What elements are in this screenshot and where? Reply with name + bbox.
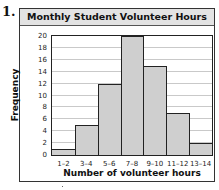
histogram-bar <box>189 143 213 156</box>
histogram-bar <box>98 84 122 156</box>
x-tick-label: 11–12 <box>166 160 189 168</box>
y-tick-label: 2 <box>27 139 47 147</box>
histogram-bar <box>121 36 145 156</box>
histogram-bar <box>166 113 190 156</box>
x-tick-label: 13–14 <box>189 160 212 168</box>
y-tick-label: 8 <box>27 103 47 111</box>
y-axis-label: Frequency <box>10 65 20 125</box>
x-tick-label: 7–8 <box>121 160 144 168</box>
stray-mark <box>62 186 63 187</box>
problem-number: 1. <box>2 4 16 19</box>
plot-area <box>51 35 213 156</box>
y-tick-label: 12 <box>27 80 47 88</box>
y-tick-label: 4 <box>27 127 47 135</box>
x-tick-label: 9–10 <box>143 160 166 168</box>
histogram-bar <box>75 125 99 156</box>
y-tick-label: 6 <box>27 115 47 123</box>
x-tick-label: 1–2 <box>52 160 75 168</box>
histogram-bar <box>51 149 76 156</box>
y-tick-label: 10 <box>27 92 47 100</box>
x-axis-label: Number of volunteer hours <box>51 168 213 178</box>
y-tick-label: 0 <box>27 151 47 159</box>
y-tick-label: 18 <box>27 44 47 52</box>
y-tick-label: 14 <box>27 68 47 76</box>
x-tick-label: 5–6 <box>98 160 121 168</box>
histogram-bar <box>143 66 167 156</box>
chart-title: Monthly Student Volunteer Hours <box>20 9 214 26</box>
y-tick-label: 16 <box>27 56 47 64</box>
x-tick-label: 3–4 <box>75 160 98 168</box>
y-tick-label: 20 <box>27 32 47 40</box>
